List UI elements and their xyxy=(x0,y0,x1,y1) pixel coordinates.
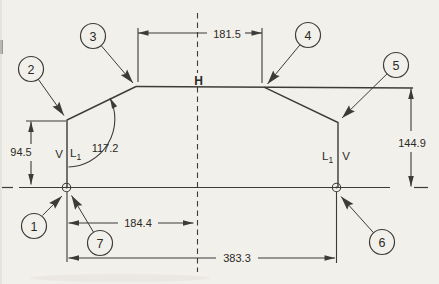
balloon-2-leader xyxy=(38,79,64,115)
profile-drawing: 181.5 144.9 94.5 117.2 184.4 xyxy=(0,0,439,284)
balloon-1[interactable]: 1 xyxy=(22,196,63,239)
label-l1-left-sub: 1 xyxy=(76,152,81,162)
outline-right-edge xyxy=(264,87,338,187)
balloon-6-label: 6 xyxy=(379,236,386,250)
balloon-6-leader xyxy=(341,197,374,233)
scan-edge xyxy=(0,0,2,284)
balloon-4-leader xyxy=(268,45,301,84)
target-dot-icon xyxy=(336,187,338,189)
outline-top-edge xyxy=(136,87,413,89)
balloon-5-leader xyxy=(342,74,387,118)
balloon-3-leader xyxy=(101,46,133,84)
scan-mottle xyxy=(30,274,210,282)
balloon-7-label: 7 xyxy=(97,237,104,251)
balloon-3[interactable]: 3 xyxy=(81,24,134,84)
balloon-7[interactable]: 7 xyxy=(72,196,113,256)
dim-overall-width-value: 383.3 xyxy=(223,252,251,264)
balloon-1-label: 1 xyxy=(31,220,38,234)
balloon-2[interactable]: 2 xyxy=(19,57,65,116)
label-l1-left: L1 xyxy=(70,147,81,162)
balloon-2-label: 2 xyxy=(28,63,35,77)
drawing-canvas: 181.5 144.9 94.5 117.2 184.4 xyxy=(0,0,439,284)
label-l1-right: L1 xyxy=(322,150,333,165)
dim-right-height-value: 144.9 xyxy=(398,137,426,149)
balloon-6[interactable]: 6 xyxy=(341,197,395,255)
dim-right-height: 144.9 xyxy=(398,89,426,187)
balloon-3-label: 3 xyxy=(90,30,97,44)
balloon-5[interactable]: 5 xyxy=(342,53,409,119)
dim-left-to-center-value: 184.4 xyxy=(124,217,152,229)
label-h-center: H xyxy=(194,74,203,88)
dim-left-angle-value: 117.2 xyxy=(92,142,119,154)
target-dot-icon xyxy=(66,187,68,189)
label-v-left: V xyxy=(55,148,63,160)
balloon-5-label: 5 xyxy=(393,59,400,73)
balloon-4[interactable]: 4 xyxy=(268,23,321,85)
balloon-4-label: 4 xyxy=(305,29,312,43)
dim-left-to-center: 184.4 xyxy=(69,217,194,229)
balloon-1-leader xyxy=(43,196,63,215)
label-l1-right-sub: 1 xyxy=(328,155,333,165)
balloon-7-leader xyxy=(72,196,94,233)
shape-outline xyxy=(67,87,413,188)
label-v-right: V xyxy=(342,150,350,162)
dim-top-width-value: 181.5 xyxy=(213,28,241,40)
dim-left-height-value: 94.5 xyxy=(10,146,31,158)
outline-left-edge xyxy=(67,87,136,188)
